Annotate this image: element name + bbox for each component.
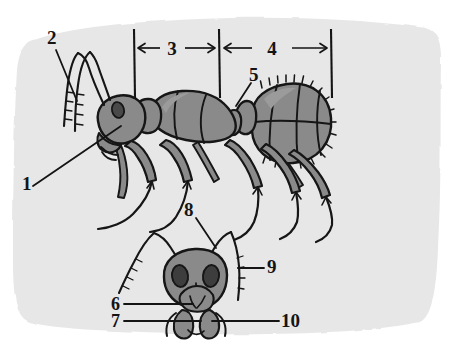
label-1: 1 xyxy=(22,173,32,194)
label-9: 9 xyxy=(267,256,277,277)
label-10: 10 xyxy=(281,310,300,331)
bracket-tick-right xyxy=(331,29,332,98)
ant-anatomy-figure: 1 2 3 4 5 6 7 8 9 10 xyxy=(0,0,456,345)
label-2: 2 xyxy=(47,27,57,48)
bracket-tick-middle xyxy=(219,29,220,98)
label-7: 7 xyxy=(111,311,120,331)
ant-illustration-svg: 1 2 3 4 5 6 7 8 9 10 xyxy=(0,0,456,345)
label-8: 8 xyxy=(184,199,194,220)
label-3: 3 xyxy=(167,38,177,59)
paper-background xyxy=(0,0,456,345)
label-4: 4 xyxy=(267,38,277,59)
bracket-tick-left xyxy=(134,29,135,98)
label-5: 5 xyxy=(249,64,259,85)
mandible-left xyxy=(174,310,193,339)
